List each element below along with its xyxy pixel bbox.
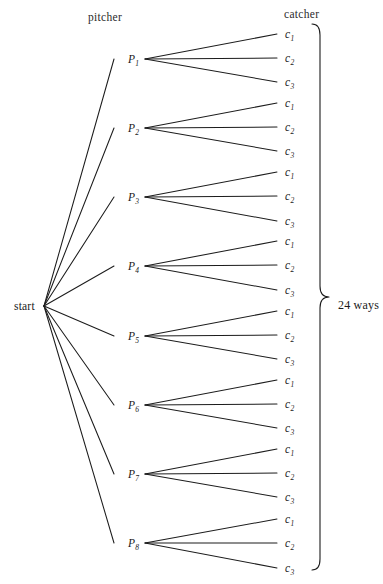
edge-pitcher-3-to-catcher-2	[145, 196, 277, 197]
edge-pitcher-8-to-catcher-3	[145, 543, 277, 568]
edge-pitcher-3-to-catcher-3	[145, 197, 277, 221]
edge-pitcher-4-to-catcher-3	[145, 266, 277, 290]
node-subscript: 3	[290, 290, 294, 299]
node-catcher-17: c2	[285, 398, 294, 410]
node-pitcher-2: P2	[128, 122, 139, 134]
node-subscript: 1	[290, 380, 294, 389]
node-subscript: 3	[290, 568, 294, 577]
node-subscript: 2	[290, 404, 294, 413]
node-pitcher-4: P4	[128, 260, 139, 272]
node-catcher-6: c3	[285, 145, 294, 157]
node-subscript: 3	[290, 151, 294, 160]
node-subscript: 6	[135, 405, 139, 414]
edge-pitcher-6-to-catcher-3	[145, 405, 277, 428]
node-subscript: 1	[290, 103, 294, 112]
node-subscript: 2	[290, 196, 294, 205]
column-header-pitcher: pitcher	[88, 11, 122, 23]
node-catcher-21: c3	[285, 491, 294, 503]
node-pitcher-5: P5	[128, 330, 139, 342]
node-letter: P	[128, 399, 135, 411]
node-letter: P	[128, 537, 135, 549]
edge-pitcher-1-to-catcher-1	[145, 34, 277, 59]
edge-start-to-pitcher-8	[44, 306, 114, 543]
node-letter: P	[128, 53, 135, 65]
edge-pitcher-3-to-catcher-1	[145, 172, 277, 197]
node-subscript: 3	[290, 359, 294, 368]
node-pitcher-8: P8	[128, 537, 139, 549]
node-catcher-9: c3	[285, 215, 294, 227]
node-subscript: 3	[290, 497, 294, 506]
node-catcher-18: c3	[285, 422, 294, 434]
node-subscript: 2	[290, 265, 294, 274]
edge-pitcher-5-to-catcher-3	[145, 336, 277, 359]
node-letter: P	[128, 468, 135, 480]
node-catcher-13: c1	[285, 305, 294, 317]
node-catcher-3: c3	[285, 76, 294, 88]
node-pitcher-7: P7	[128, 468, 139, 480]
node-subscript: 1	[290, 519, 294, 528]
node-catcher-16: c1	[285, 374, 294, 386]
node-letter: P	[128, 330, 135, 342]
node-catcher-14: c2	[285, 329, 294, 341]
edge-start-to-pitcher-2	[44, 128, 114, 306]
node-subscript: 2	[290, 58, 294, 67]
edge-pitcher-5-to-catcher-1	[145, 311, 277, 336]
node-catcher-15: c3	[285, 353, 294, 365]
edge-pitcher-7-to-catcher-1	[145, 449, 277, 474]
node-catcher-20: c2	[285, 467, 294, 479]
node-subscript: 1	[290, 311, 294, 320]
edge-pitcher-2-to-catcher-1	[145, 103, 277, 128]
column-header-catcher: catcher	[284, 8, 319, 20]
node-subscript: 2	[290, 543, 294, 552]
tree-diagram-canvas: pitcher catcher start 24 ways P1P2P3P4P5…	[0, 0, 383, 584]
node-subscript: 2	[290, 473, 294, 482]
node-subscript: 8	[135, 543, 139, 552]
node-subscript: 5	[135, 336, 139, 345]
node-subscript: 1	[290, 34, 294, 43]
tree-edges-layer	[0, 0, 383, 584]
edge-pitcher-4-to-catcher-2	[145, 265, 277, 266]
node-subscript: 3	[135, 197, 139, 206]
node-subscript: 1	[290, 449, 294, 458]
pitcher-to-catcher-edges	[145, 34, 277, 568]
edge-pitcher-8-to-catcher-1	[145, 519, 277, 543]
node-start: start	[14, 300, 35, 312]
total-outcomes-label: 24 ways	[338, 298, 379, 313]
edge-pitcher-2-to-catcher-2	[145, 127, 277, 128]
edge-pitcher-7-to-catcher-2	[145, 473, 277, 474]
summary-brace	[312, 24, 329, 570]
node-subscript: 3	[290, 82, 294, 91]
edge-pitcher-7-to-catcher-3	[145, 474, 277, 497]
node-catcher-5: c2	[285, 121, 294, 133]
node-subscript: 2	[135, 128, 139, 137]
edge-start-to-pitcher-4	[44, 266, 114, 306]
node-catcher-23: c2	[285, 537, 294, 549]
edge-pitcher-4-to-catcher-1	[145, 241, 277, 266]
edge-pitcher-6-to-catcher-1	[145, 380, 277, 405]
edge-pitcher-1-to-catcher-2	[145, 58, 277, 59]
node-catcher-22: c1	[285, 513, 294, 525]
node-letter: P	[128, 122, 135, 134]
edge-pitcher-6-to-catcher-2	[145, 404, 277, 405]
node-pitcher-1: P1	[128, 53, 139, 65]
node-subscript: 3	[290, 221, 294, 230]
edge-pitcher-2-to-catcher-3	[145, 128, 277, 151]
node-subscript: 4	[135, 266, 139, 275]
node-letter: P	[128, 191, 135, 203]
node-catcher-8: c2	[285, 190, 294, 202]
edge-start-to-pitcher-1	[44, 59, 114, 306]
root-to-pitcher-edges	[44, 59, 114, 543]
node-subscript: 1	[290, 241, 294, 250]
node-subscript: 3	[290, 428, 294, 437]
node-pitcher-3: P3	[128, 191, 139, 203]
node-catcher-1: c1	[285, 28, 294, 40]
node-pitcher-6: P6	[128, 399, 139, 411]
node-letter: P	[128, 260, 135, 272]
node-subscript: 1	[135, 59, 139, 68]
edge-pitcher-5-to-catcher-2	[145, 335, 277, 336]
node-catcher-19: c1	[285, 443, 294, 455]
node-catcher-11: c2	[285, 259, 294, 271]
node-catcher-24: c3	[285, 562, 294, 574]
node-subscript: 2	[290, 127, 294, 136]
edge-start-to-pitcher-3	[44, 197, 114, 306]
